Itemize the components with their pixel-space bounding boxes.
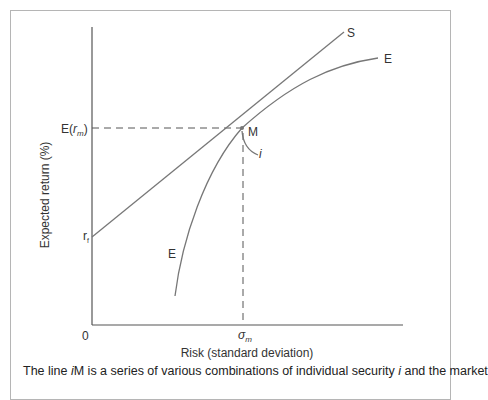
caption-part2: M is a series of various combinations of… [74, 364, 398, 378]
label-i: i [259, 148, 262, 160]
label-sigma-m: σm [238, 329, 252, 344]
curve-E [175, 58, 378, 296]
label-origin: 0 [82, 330, 89, 342]
label-S: S [347, 27, 355, 39]
label-rf: rf [83, 230, 89, 244]
label-erm: E(rm) [61, 123, 88, 138]
rf-sub: f [87, 237, 89, 244]
erm-suffix: ) [84, 122, 88, 136]
erm-prefix: E( [61, 122, 73, 136]
figure-caption: The line iM is a series of various combi… [23, 364, 488, 378]
point-M [240, 126, 244, 130]
y-axis-label: Expected return (%) [38, 142, 52, 249]
caption-part3: and the market [401, 364, 488, 378]
x-axis-label: Risk (standard deviation) [181, 346, 314, 360]
caption-part1: The line [23, 364, 71, 378]
erm-sub: m [77, 129, 84, 138]
sigma-sub: m [245, 335, 252, 344]
label-M: M [248, 126, 258, 138]
line-S [92, 32, 344, 237]
label-E-bottom: E [168, 248, 176, 260]
label-E-top: E [384, 53, 392, 65]
